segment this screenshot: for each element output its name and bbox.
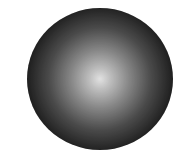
- shaded-sphere: [27, 8, 173, 150]
- halftone-texture: [27, 8, 173, 150]
